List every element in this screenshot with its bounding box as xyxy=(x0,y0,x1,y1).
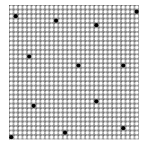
ring-grid-field xyxy=(9,5,139,139)
black-dot-8 xyxy=(94,99,98,103)
black-dot-2 xyxy=(94,23,98,27)
black-dot-4 xyxy=(27,54,31,58)
black-dot-10 xyxy=(121,126,125,130)
dot-grid-pattern xyxy=(0,0,144,145)
black-dot-3 xyxy=(135,10,139,14)
black-dot-1 xyxy=(54,19,58,23)
black-dot-0 xyxy=(14,14,18,18)
circle-grid-canvas xyxy=(0,0,144,145)
black-dot-5 xyxy=(76,63,80,67)
black-dot-11 xyxy=(9,135,13,139)
black-dot-7 xyxy=(32,104,36,108)
black-dot-6 xyxy=(121,63,125,67)
black-dot-9 xyxy=(63,131,67,135)
